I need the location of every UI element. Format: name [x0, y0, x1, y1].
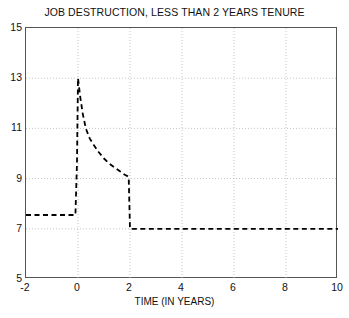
y-axis-tick-labels: 579111315: [0, 27, 22, 278]
plot-svg: [26, 28, 338, 279]
x-tick-label: 10: [322, 281, 349, 293]
x-tick-label: 4: [166, 281, 196, 293]
y-tick-label: 9: [2, 172, 22, 184]
x-tick-label: -2: [10, 281, 40, 293]
x-tick-label: 0: [62, 281, 92, 293]
y-tick-label: 7: [2, 222, 22, 234]
x-tick-label: 8: [270, 281, 300, 293]
grid-lines: [26, 28, 338, 279]
x-tick-label: 2: [114, 281, 144, 293]
y-tick-label: 15: [2, 21, 22, 33]
x-axis-tick-labels: -20246810: [25, 281, 337, 297]
chart-figure: JOB DESTRUCTION, LESS THAN 2 YEARS TENUR…: [0, 0, 349, 318]
x-axis-label: TIME (IN YEARS): [0, 296, 349, 307]
chart-title: JOB DESTRUCTION, LESS THAN 2 YEARS TENUR…: [0, 6, 349, 18]
plot-area: [25, 27, 337, 278]
y-tick-label: 13: [2, 71, 22, 83]
x-tick-label: 6: [218, 281, 248, 293]
y-tick-label: 11: [2, 121, 22, 133]
